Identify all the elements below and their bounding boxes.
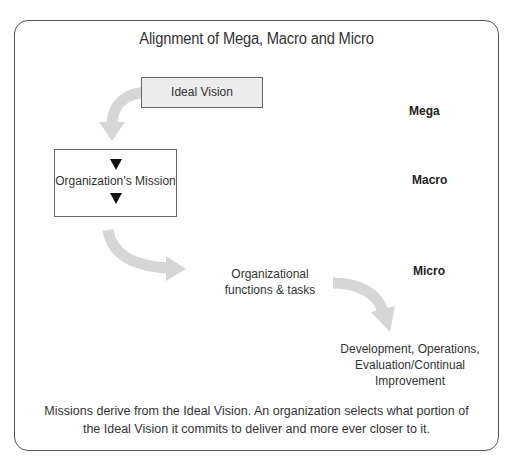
functions-line: functions & tasks	[200, 282, 340, 298]
ideal-vision-box: Ideal Vision	[141, 77, 263, 108]
level-macro: Macro	[412, 173, 447, 187]
functions-node: Organizational functions & tasks	[200, 266, 340, 298]
arrow-mission-to-functions-head	[166, 256, 186, 281]
diagram-note: Missions derive from the Ideal Vision. A…	[14, 402, 499, 438]
development-line: Evaluation/Continual	[300, 357, 513, 373]
mission-box: Organization’s Mission	[54, 149, 177, 217]
functions-line: Organizational	[200, 266, 340, 282]
note-line: Missions derive from the Ideal Vision. A…	[14, 402, 499, 420]
arrow-functions-to-dev	[333, 283, 383, 312]
development-node: Development, Operations, Evaluation/Cont…	[300, 341, 513, 389]
arrow-functions-to-dev-head	[371, 306, 395, 332]
ideal-vision-label: Ideal Vision	[171, 85, 233, 99]
flow-arrows	[0, 0, 513, 469]
arrow-mission-to-functions	[108, 230, 168, 268]
note-line: the Ideal Vision it commits to deliver a…	[14, 420, 499, 438]
triangle-down-icon	[110, 193, 122, 204]
mission-label: Organization’s Mission	[55, 174, 176, 188]
level-micro: Micro	[413, 264, 445, 278]
level-mega: Mega	[409, 104, 440, 118]
arrow-ideal-to-mission-head	[99, 122, 125, 141]
development-line: Development, Operations,	[300, 341, 513, 357]
development-line: Improvement	[300, 373, 513, 389]
triangle-down-icon	[110, 159, 122, 170]
